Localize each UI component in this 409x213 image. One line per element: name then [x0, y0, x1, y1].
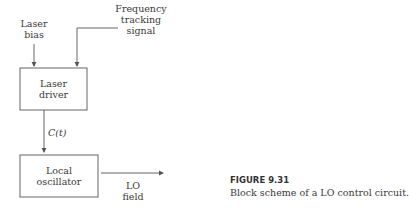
frequency-tracking-line-2: tracking	[112, 14, 170, 25]
laser-driver-line-2: driver	[20, 89, 87, 100]
lo-field-label: LO field	[120, 180, 146, 202]
frequency-tracking-label: Frequency tracking signal	[112, 3, 170, 36]
frequency-tracking-line-3: signal	[112, 25, 170, 36]
control-signal-label: C(t)	[48, 127, 70, 138]
figure-caption: Block scheme of a LO control circuit.	[230, 187, 409, 198]
frequency-tracking-line-1: Frequency	[112, 3, 170, 14]
local-oscillator-line-1: Local	[20, 165, 98, 176]
laser-bias-line-1: Laser	[15, 18, 53, 29]
local-oscillator-label: Local oscillator	[20, 165, 98, 187]
laser-bias-line-2: bias	[15, 29, 53, 40]
figure-number: FIGURE 9.31	[230, 175, 289, 185]
laser-bias-label: Laser bias	[15, 18, 53, 40]
local-oscillator-line-2: oscillator	[20, 176, 98, 187]
lo-field-line-1: LO	[120, 180, 146, 191]
laser-driver-label: Laser driver	[20, 78, 87, 100]
laser-driver-line-1: Laser	[20, 78, 87, 89]
lo-field-line-2: field	[120, 191, 146, 202]
